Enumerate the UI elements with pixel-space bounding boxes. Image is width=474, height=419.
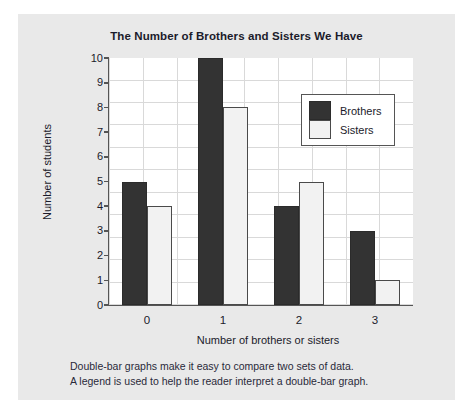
y-tick-mark bbox=[104, 131, 109, 133]
legend-swatch bbox=[309, 101, 331, 120]
bar bbox=[299, 182, 324, 306]
chart-caption: Double-bar graphs make it easy to compar… bbox=[70, 359, 420, 389]
y-tick-mark bbox=[104, 82, 109, 84]
y-tick-mark bbox=[104, 280, 109, 282]
x-tick-label: 1 bbox=[220, 305, 226, 326]
y-tick-mark bbox=[104, 156, 109, 158]
y-tick-mark bbox=[104, 205, 109, 207]
y-tick-mark bbox=[104, 107, 109, 109]
caption-line: Double-bar graphs make it easy to compar… bbox=[70, 359, 420, 374]
x-tick-label: 2 bbox=[296, 305, 302, 326]
figure-panel: The Number of Brothers and Sisters We Ha… bbox=[18, 14, 455, 400]
y-axis-title: Number of students bbox=[41, 82, 53, 262]
x-tick-label: 0 bbox=[144, 305, 150, 326]
bar bbox=[274, 206, 299, 305]
legend-label: Brothers bbox=[331, 105, 382, 117]
caption-line: A legend is used to help the reader inte… bbox=[70, 374, 420, 389]
legend-swatch bbox=[309, 120, 331, 139]
legend-item: Sisters bbox=[309, 120, 387, 139]
y-tick-mark bbox=[104, 181, 109, 183]
bar bbox=[350, 231, 375, 305]
x-axis-title: Number of brothers or sisters bbox=[108, 334, 428, 346]
bar bbox=[198, 58, 223, 305]
legend-item: Brothers bbox=[309, 101, 387, 120]
y-tick-mark bbox=[104, 57, 109, 59]
y-tick-mark bbox=[104, 255, 109, 257]
plot-area: 012345678910 0123 BrothersSisters bbox=[108, 58, 413, 306]
bar bbox=[223, 107, 248, 305]
bar bbox=[375, 280, 400, 305]
chart-title: The Number of Brothers and Sisters We Ha… bbox=[18, 30, 455, 42]
y-tick-mark bbox=[104, 304, 109, 306]
bar bbox=[122, 182, 147, 306]
chart-legend: BrothersSisters bbox=[301, 94, 395, 146]
legend-label: Sisters bbox=[331, 124, 374, 136]
y-tick-mark bbox=[104, 230, 109, 232]
bar bbox=[147, 206, 172, 305]
x-tick-label: 3 bbox=[372, 305, 378, 326]
